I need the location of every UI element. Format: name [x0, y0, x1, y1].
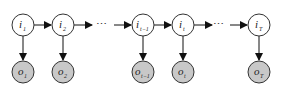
hmm-diagram: ⋯ ⋯ i 1 i 2 i t−1 i t i T o 1	[0, 0, 281, 96]
observed-node-oT: o T	[248, 61, 270, 83]
svg-text:2: 2	[64, 73, 67, 79]
observed-node-ot-1: o t−1	[132, 61, 154, 83]
observed-node-o2: o 2	[52, 61, 74, 83]
svg-text:1: 1	[24, 73, 27, 79]
emission-arrows	[23, 36, 259, 60]
hidden-node-it-1: i t−1	[132, 14, 154, 36]
hidden-node-i1: i 1	[12, 14, 34, 36]
ellipsis-1: ⋯	[96, 18, 107, 30]
hidden-node-it: i t	[172, 14, 194, 36]
svg-text:t−1: t−1	[140, 26, 149, 32]
svg-text:1: 1	[23, 26, 26, 32]
svg-text:i: i	[59, 18, 62, 30]
svg-text:i: i	[19, 18, 22, 30]
svg-text:t−1: t−1	[141, 73, 150, 79]
hidden-node-i2: i 2	[52, 14, 74, 36]
observed-node-ot: o t	[172, 61, 194, 83]
hidden-node-iT: i T	[248, 14, 270, 36]
ellipsis-2: ⋯	[213, 18, 224, 30]
svg-text:i: i	[179, 18, 182, 30]
svg-text:i: i	[255, 18, 258, 30]
svg-text:2: 2	[63, 26, 66, 32]
observed-node-o1: o 1	[12, 61, 34, 83]
svg-text:i: i	[136, 18, 139, 30]
